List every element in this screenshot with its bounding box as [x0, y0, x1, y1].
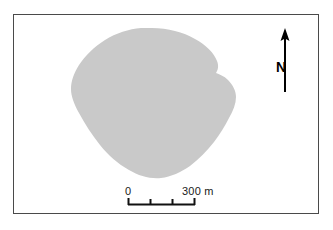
north-arrow-letter: N [276, 60, 286, 74]
scale-bar-zero-label: 0 [125, 185, 131, 197]
map-figure: 0 300 m N [0, 0, 333, 230]
island-polygon [71, 28, 236, 178]
scale-bar-graphic [128, 198, 195, 205]
map-graphics [0, 0, 333, 230]
scale-bar-max-label: 300 m [182, 185, 214, 197]
